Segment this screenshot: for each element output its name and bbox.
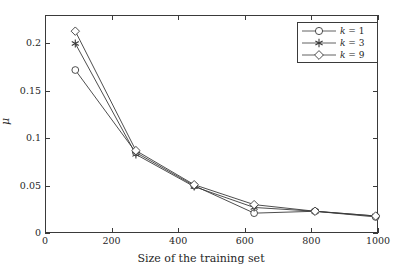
x-tick-label: 800: [281, 236, 341, 246]
legend[interactable]: k = 1 k = 3: [297, 22, 378, 63]
y-tick-label: 0.05: [0, 181, 41, 191]
x-tick-label: 200: [82, 236, 142, 246]
x-tick-label: 400: [148, 236, 208, 246]
circle-marker-icon: [301, 25, 337, 37]
series-asterisk: [72, 39, 379, 220]
x-tick-label: 0: [15, 236, 75, 246]
y-tick-label: 0.1: [0, 133, 41, 143]
legend-label-k3: k = 3: [340, 38, 365, 48]
y-tick-label: 0.2: [0, 38, 41, 48]
legend-item-k9[interactable]: k = 9: [298, 49, 377, 61]
chart-figure: μ 00.050.10.150.202004006008001000 k = 1: [0, 0, 402, 277]
x-axis-title: Size of the training set: [0, 252, 402, 265]
data-point: [72, 39, 79, 47]
x-tick-label: 600: [215, 236, 275, 246]
y-tick-label: 0.15: [0, 86, 41, 96]
data-point: [311, 207, 319, 215]
y-axis-title: μ: [0, 118, 12, 125]
data-point: [71, 27, 79, 35]
data-point: [72, 67, 79, 74]
legend-item-k3[interactable]: k = 3: [298, 37, 377, 49]
asterisk-marker-icon: [301, 37, 337, 49]
x-tick-label: 1000: [348, 236, 402, 246]
legend-label-k1: k = 1: [340, 26, 365, 36]
legend-item-k1[interactable]: k = 1: [298, 25, 377, 37]
legend-label-k9: k = 9: [340, 50, 365, 60]
diamond-marker-icon: [301, 49, 337, 61]
